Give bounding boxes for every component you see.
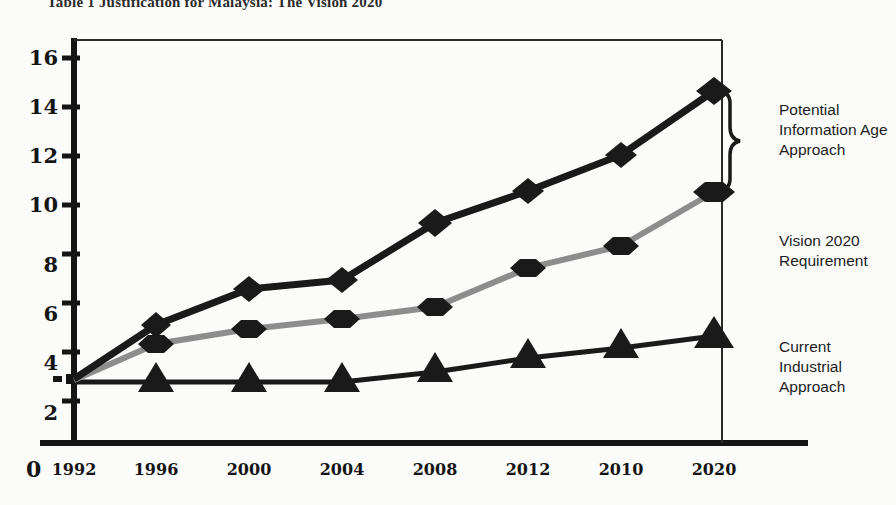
x-tick-label-2004: 2004 (312, 460, 372, 479)
x-tick-label-1992: 1992 (44, 460, 104, 479)
x-tick-label-2000: 2000 (219, 460, 279, 479)
origin-zero-label: 0 (26, 456, 41, 482)
x-tick-label-1996: 1996 (126, 460, 186, 479)
y-tick-label: 8 (18, 252, 58, 277)
x-tick-label-2020: 2020 (684, 460, 744, 479)
y-tick-label: 4 (18, 350, 58, 375)
x-tick-label-2012: 2012 (498, 460, 558, 479)
y-tick-label: 12 (18, 143, 58, 168)
chart-canvas (0, 0, 896, 505)
y-tick-label: 14 (18, 94, 58, 119)
x-tick-label-2008: 2008 (405, 460, 465, 479)
legend-label-current-industrial-approach: Current Industrial Approach (779, 337, 896, 397)
legend-label-potential-information-age-approach: Potential Information Age Approach (779, 100, 896, 160)
y-tick-label: 16 (18, 45, 58, 70)
series-markers-vision-2020-requirement (138, 182, 735, 353)
legend-label-vision-2020-requirement: Vision 2020 Requirement (779, 231, 896, 271)
x-tick-label-2010: 2010 (591, 460, 651, 479)
brace-potential-gap (716, 91, 740, 191)
y-tick-label: 10 (18, 192, 58, 217)
y-tick-label: 2 (18, 400, 58, 425)
y-tick-label: 6 (18, 301, 58, 326)
